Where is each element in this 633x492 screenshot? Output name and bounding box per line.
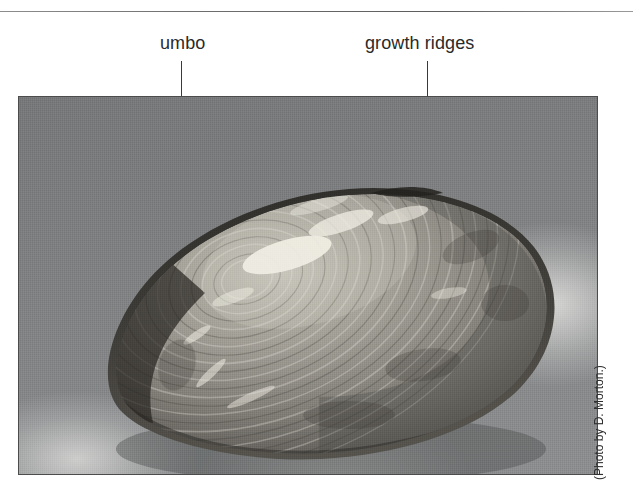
- photo-credit: (Photo by D. Morton.): [592, 365, 606, 480]
- callout-label-umbo: umbo: [160, 33, 205, 53]
- callout-label-growth-ridges: growth ridges: [365, 33, 474, 53]
- figure-bivalve-shell: umbo growth ridges: [0, 0, 633, 492]
- photo-film-grain: [19, 97, 597, 474]
- photo-bivalve-shell: [19, 97, 597, 474]
- top-divider-rule: [0, 11, 633, 12]
- photo-credit-wrapper: (Photo by D. Morton.): [606, 330, 626, 480]
